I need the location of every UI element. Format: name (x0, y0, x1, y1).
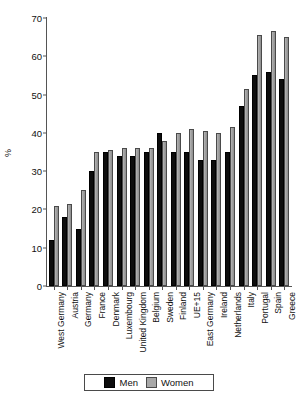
men-swatch-icon (104, 377, 115, 388)
legend-label-women: Women (161, 377, 194, 388)
x-axis-tick-mark (67, 286, 68, 290)
bar-group (210, 18, 224, 286)
x-axis-tick-label: Netherlands (234, 292, 243, 338)
x-axis-tick-label: Italy (247, 292, 256, 308)
bar-women (81, 190, 86, 286)
bar-chart-figure: % 010203040506070 West GermanyAustriaGer… (0, 0, 297, 399)
bar-women (149, 148, 154, 286)
x-axis-tick-label: Germany (84, 292, 93, 327)
bar-group (196, 18, 210, 286)
x-axis-tick-mark (203, 286, 204, 290)
bar-group (250, 18, 264, 286)
x-axis-tick-label: East Germany (206, 292, 215, 346)
x-axis-tick-label: Spain (274, 292, 283, 314)
x-axis-tick-mark (230, 286, 231, 290)
bar-group (183, 18, 197, 286)
x-axis-tick-mark (54, 286, 55, 290)
bar-women (216, 133, 221, 286)
x-axis-tick-mark (189, 286, 190, 290)
bar-women (108, 150, 113, 286)
x-axis-line (46, 286, 292, 287)
bar-women (162, 141, 167, 286)
bar-women (122, 148, 127, 286)
bar-women (271, 31, 276, 286)
bar-women (189, 129, 194, 286)
bar-group (88, 18, 102, 286)
x-axis-tick-mark (271, 286, 272, 290)
bar-group (128, 18, 142, 286)
bar-women (135, 148, 140, 286)
bar-group (142, 18, 156, 286)
x-axis-tick-mark (81, 286, 82, 290)
x-axis-tick-mark (216, 286, 217, 290)
bar-group (169, 18, 183, 286)
bar-women (176, 133, 181, 286)
bar-group (74, 18, 88, 286)
legend-item-men: Men (104, 377, 137, 388)
x-axis-tick-mark (284, 286, 285, 290)
bar-women (54, 206, 59, 286)
y-axis-title: % (3, 133, 13, 173)
x-axis-tick-label: UE+15 (193, 292, 202, 318)
bar-group (101, 18, 115, 286)
x-axis-tick-mark (135, 286, 136, 290)
bar-group (115, 18, 129, 286)
legend-label-men: Men (119, 377, 137, 388)
bar-women (67, 204, 72, 286)
x-axis-tick-label: Luxembourg (125, 292, 134, 339)
bar-group (223, 18, 237, 286)
x-axis-tick-mark (149, 286, 150, 290)
x-axis-tick-label: Portugal (261, 292, 270, 324)
chart-legend: Men Women (84, 374, 214, 391)
x-axis-tick-label: Austria (71, 292, 80, 318)
x-axis-tick-label: Sweden (166, 292, 175, 323)
x-axis-tick-mark (162, 286, 163, 290)
x-axis-tick-label: Denmark (112, 292, 121, 326)
bar-group (264, 18, 278, 286)
legend-item-women: Women (146, 377, 194, 388)
women-swatch-icon (146, 377, 157, 388)
bar-women (203, 131, 208, 286)
bar-group (47, 18, 61, 286)
x-axis-tick-label: France (98, 292, 107, 318)
bar-group (155, 18, 169, 286)
x-axis-tick-mark (257, 286, 258, 290)
bar-women (230, 127, 235, 286)
bar-group (61, 18, 75, 286)
bar-women (244, 89, 249, 286)
x-axis-tick-mark (94, 286, 95, 290)
x-axis-tick-label: Greece (288, 292, 297, 320)
bar-women (94, 152, 99, 286)
x-axis-tick-mark (108, 286, 109, 290)
x-axis-tick-label: Finland (179, 292, 188, 320)
x-axis-tick-mark (122, 286, 123, 290)
x-axis-tick-mark (244, 286, 245, 290)
plot-area: 010203040506070 (47, 18, 291, 286)
bar-women (284, 37, 289, 286)
bar-group (277, 18, 291, 286)
bar-women (257, 35, 262, 286)
x-axis-tick-label: West Germany (57, 292, 66, 349)
x-axis-tick-label: Ireland (220, 292, 229, 318)
x-axis-tick-label: Belgium (152, 292, 161, 323)
x-axis-tick-label: United Kingdom (139, 292, 148, 352)
bar-group (237, 18, 251, 286)
x-axis-tick-mark (176, 286, 177, 290)
